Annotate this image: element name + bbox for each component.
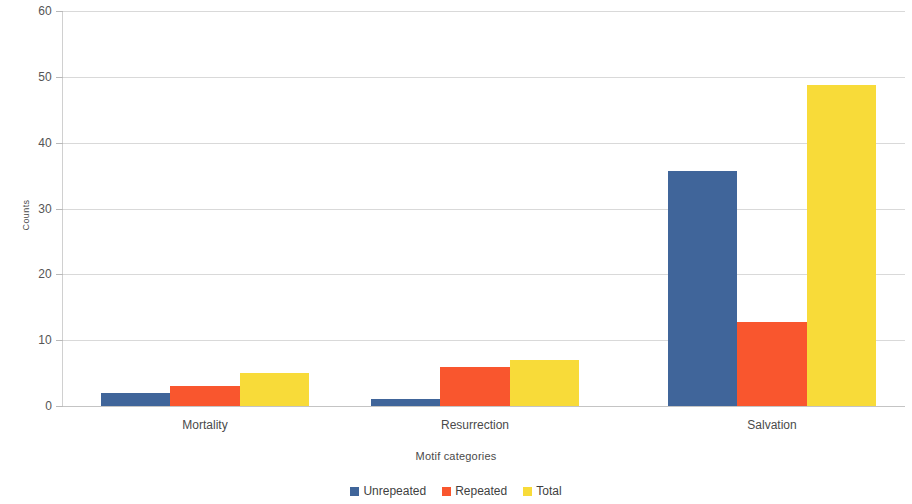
gridline — [62, 274, 905, 275]
legend-item[interactable]: Unrepeated — [350, 485, 426, 498]
y-axis-tick-mark — [56, 209, 63, 210]
legend-label: Unrepeated — [363, 485, 426, 498]
gridline — [62, 209, 905, 210]
y-axis-tick-mark — [56, 143, 63, 144]
x-axis-title: Motif categories — [0, 450, 912, 463]
bar — [737, 322, 807, 406]
x-axis-category-label: Salvation — [692, 418, 852, 432]
y-axis-tick-label: 0 — [12, 400, 52, 412]
y-axis-tick-mark — [56, 274, 63, 275]
bar — [440, 367, 510, 407]
bar — [240, 373, 310, 406]
y-axis-tick-label: 40 — [12, 137, 52, 149]
gridline — [62, 406, 905, 407]
y-axis-tick-label: 50 — [12, 71, 52, 83]
y-axis-tick-mark — [56, 11, 63, 12]
y-axis-tick-mark — [56, 77, 63, 78]
legend-swatch-icon — [523, 487, 532, 496]
y-axis-tick-label: 30 — [12, 203, 52, 215]
legend-swatch-icon — [350, 487, 359, 496]
bar — [371, 399, 441, 406]
gridline — [62, 143, 905, 144]
y-axis-title: Counts — [21, 175, 31, 255]
gridline — [62, 11, 905, 12]
bar — [510, 360, 580, 406]
legend-item[interactable]: Repeated — [442, 485, 507, 498]
y-axis-tick-label: 60 — [12, 5, 52, 17]
y-axis-tick-label: 20 — [12, 268, 52, 280]
gridline — [62, 77, 905, 78]
bar — [668, 171, 738, 406]
bar — [170, 386, 240, 406]
y-axis-tick-mark — [56, 340, 63, 341]
bar — [101, 393, 171, 406]
x-axis-category-label: Mortality — [125, 418, 285, 432]
bar — [807, 85, 877, 406]
plot-area — [62, 11, 905, 406]
y-axis-tick-mark — [56, 406, 63, 407]
bar-chart: 0102030405060 MortalityResurrectionSalva… — [0, 0, 912, 504]
legend-item[interactable]: Total — [523, 485, 561, 498]
chart-legend: UnrepeatedRepeatedTotal — [0, 485, 912, 498]
legend-swatch-icon — [442, 487, 451, 496]
legend-label: Repeated — [455, 485, 507, 498]
y-axis-tick-label: 10 — [12, 334, 52, 346]
legend-label: Total — [536, 485, 561, 498]
x-axis-category-label: Resurrection — [395, 418, 555, 432]
